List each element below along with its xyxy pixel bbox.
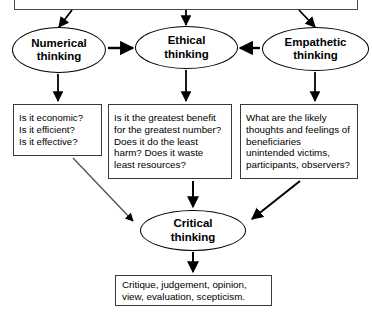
questions-box-ethical: Is it the greatest benefit for the great… <box>108 104 232 179</box>
arrow-source-to-empathetic <box>299 10 315 27</box>
node-empathetic-thinking-label: Empathetic thinking <box>285 36 347 62</box>
node-ethical-thinking[interactable]: Ethical thinking <box>135 26 238 69</box>
node-numerical-thinking[interactable]: Numerical thinking <box>12 27 106 73</box>
arrow-empathetic-questions-to-critical <box>252 181 300 219</box>
arrow-source-to-numerical <box>59 10 72 27</box>
questions-box-numerical-text: Is it economic? Is it efficient? Is it e… <box>14 112 101 147</box>
node-empathetic-thinking[interactable]: Empathetic thinking <box>262 27 369 71</box>
questions-box-empathetic: What are the likely thoughts and feeling… <box>240 104 358 179</box>
outcome-box: Critique, judgement, opinion, view, eval… <box>115 275 272 306</box>
questions-box-empathetic-text: What are the likely thoughts and feeling… <box>241 112 357 172</box>
questions-box-ethical-text: Is it the greatest benefit for the great… <box>109 112 231 172</box>
node-ethical-thinking-label: Ethical thinking <box>164 34 209 60</box>
critical-thinking-diagram: Numerical thinking Ethical thinking Empa… <box>0 0 372 320</box>
top-source-box <box>14 0 358 10</box>
node-critical-thinking-label: Critical thinking <box>171 217 216 243</box>
node-numerical-thinking-label: Numerical thinking <box>31 37 87 63</box>
questions-box-numerical: Is it economic? Is it efficient? Is it e… <box>13 104 102 156</box>
node-critical-thinking[interactable]: Critical thinking <box>140 210 246 251</box>
outcome-box-text: Critique, judgement, opinion, view, eval… <box>116 279 271 303</box>
